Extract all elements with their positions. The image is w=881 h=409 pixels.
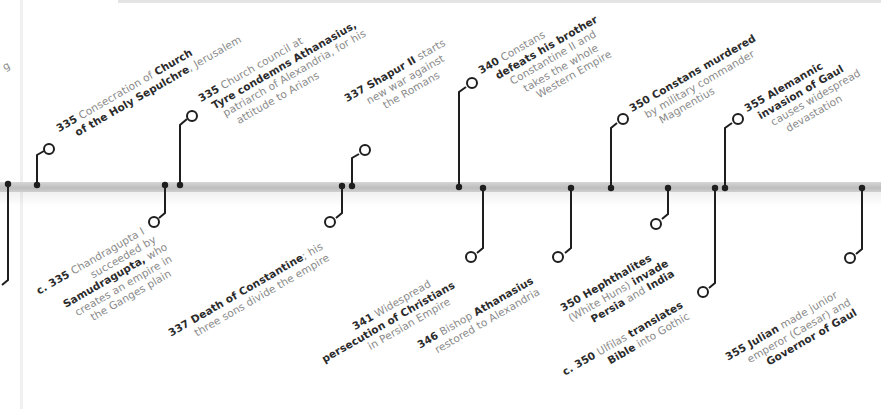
marker-b6 <box>698 188 715 297</box>
marker-e5 <box>611 114 628 188</box>
marker-b2 <box>325 186 342 227</box>
marker-b3 <box>466 188 483 262</box>
marker-e3 <box>352 145 370 186</box>
marker-e2 <box>180 111 197 186</box>
marker-e4 <box>459 78 477 186</box>
marker-b5 <box>651 188 668 229</box>
marker-b4 <box>553 188 571 262</box>
marker-e6 <box>725 114 743 188</box>
marker-b7 <box>845 188 862 263</box>
marker-left <box>2 186 8 285</box>
marker-e1 <box>37 144 54 186</box>
